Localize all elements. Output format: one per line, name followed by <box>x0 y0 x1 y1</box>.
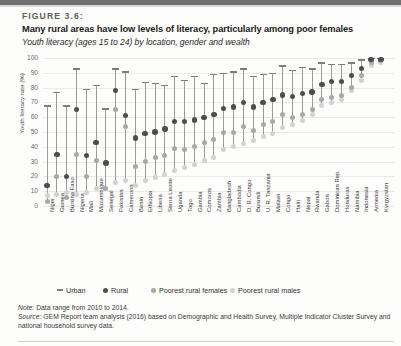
females-marker <box>202 140 207 145</box>
country-column <box>141 54 150 208</box>
urban-marker <box>279 65 286 66</box>
rural-marker <box>93 140 98 145</box>
legend-item-poorest-rural-females[interactable]: Poorest rural females <box>151 285 227 295</box>
country-column <box>288 54 297 208</box>
x-tick-label: Togo <box>187 199 193 212</box>
females-marker <box>94 158 99 163</box>
country-column <box>308 54 317 208</box>
rural-marker <box>231 104 236 109</box>
x-tick-label: Mozambique <box>98 178 104 212</box>
country-column <box>357 54 366 208</box>
country-column <box>209 54 218 208</box>
urban-marker <box>210 74 217 75</box>
males-marker <box>211 155 216 160</box>
note-line: Note: Data range from 2010 to 2014. <box>18 303 394 312</box>
females-marker <box>192 144 197 149</box>
females-marker <box>133 164 138 169</box>
x-tick-label: Bangladesh <box>226 181 232 212</box>
legend-item-urban[interactable]: Urban <box>57 285 86 295</box>
females-marker <box>172 146 177 151</box>
figure-title: Many rural areas have low levels of lite… <box>22 24 392 34</box>
rural-marker <box>260 100 265 105</box>
x-tick-label: D. R. Congo <box>246 180 252 212</box>
rural-marker <box>172 119 177 124</box>
rural-marker <box>251 104 256 109</box>
range-stem <box>263 74 264 136</box>
rural-marker <box>192 117 197 122</box>
urban-marker <box>161 85 168 86</box>
source-prefix: Source: <box>18 313 41 320</box>
x-tick-label: Ethiopia <box>147 191 153 212</box>
urban-marker <box>220 73 227 74</box>
y-tick-label: 70 <box>18 98 38 105</box>
range-stem <box>96 85 97 189</box>
males-marker <box>153 175 158 180</box>
rural-marker <box>74 107 79 112</box>
males-marker <box>261 134 266 139</box>
urban-marker <box>83 89 90 90</box>
males-marker <box>290 122 295 127</box>
females-marker <box>182 147 187 152</box>
y-tick-label: 100 <box>18 54 38 61</box>
rural-marker <box>241 100 246 105</box>
females-marker <box>339 93 344 98</box>
legend-line-icon <box>57 289 63 290</box>
urban-marker <box>181 80 188 81</box>
males-marker <box>270 131 275 136</box>
range-stem <box>223 73 224 150</box>
country-column <box>151 54 160 208</box>
country-column <box>278 54 287 208</box>
rural-marker <box>133 135 138 140</box>
x-tick-label: Gabon <box>324 194 330 212</box>
rural-marker <box>221 106 226 111</box>
urban-marker <box>102 108 109 109</box>
females-marker <box>113 107 118 112</box>
urban-marker <box>93 85 100 86</box>
country-column <box>82 54 91 208</box>
rural-marker <box>123 113 128 118</box>
males-marker <box>192 162 197 167</box>
rural-marker <box>368 57 373 62</box>
x-tick-label: Malawi <box>275 194 281 212</box>
urban-marker <box>73 68 80 69</box>
urban-marker <box>309 68 316 69</box>
males-marker <box>123 178 128 183</box>
males-marker <box>182 165 187 170</box>
males-marker <box>319 103 324 108</box>
legend-item-poorest-rural-males[interactable]: Poorest rural males <box>230 285 300 295</box>
females-marker <box>231 130 236 135</box>
x-tick-label: Burundi <box>255 192 261 212</box>
y-tick-label: 40 <box>18 143 38 150</box>
males-marker <box>280 125 285 130</box>
x-tick-label: Cameroon <box>128 184 134 212</box>
females-marker <box>280 112 285 117</box>
rural-marker <box>290 94 295 99</box>
figure-label: FIGURE 3.6: <box>22 11 84 21</box>
y-tick-label: 30 <box>18 158 38 165</box>
rural-marker <box>329 79 334 84</box>
bottom-rule <box>18 341 394 342</box>
females-marker <box>251 128 256 133</box>
top-rule-shadow <box>0 5 401 7</box>
legend-item-rural[interactable]: Rural <box>103 285 128 295</box>
rural-marker <box>44 183 49 188</box>
note-text: Data range from 2010 to 2014. <box>34 304 128 311</box>
country-column <box>111 54 120 208</box>
females-marker <box>211 137 216 142</box>
x-tick-label: Benin <box>138 197 144 212</box>
males-marker <box>339 97 344 102</box>
males-marker <box>143 178 148 183</box>
urban-marker <box>348 62 355 63</box>
source-text: GEM Report team analysis (2016) based on… <box>18 313 390 329</box>
country-column <box>180 54 189 208</box>
rural-marker <box>349 73 354 78</box>
females-marker <box>123 124 128 129</box>
rural-marker <box>319 82 324 87</box>
rural-marker <box>309 89 314 94</box>
rural-marker <box>162 126 167 131</box>
x-tick-label: Mali <box>88 201 94 212</box>
rural-marker <box>113 88 118 93</box>
legend-dot-icon <box>230 288 235 293</box>
country-column <box>298 54 307 208</box>
rural-marker <box>201 115 206 120</box>
